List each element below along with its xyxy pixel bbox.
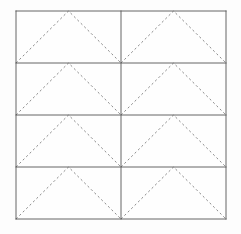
cell-background-cell-r1c1 bbox=[16, 11, 121, 63]
figure-canvas bbox=[0, 0, 241, 234]
cell-background-cell-r3c2 bbox=[121, 115, 226, 167]
cell-background-cell-r1c2 bbox=[121, 11, 226, 63]
cell-background-cell-r3c1 bbox=[16, 115, 121, 167]
cell-background-cell-r2c1 bbox=[16, 63, 121, 115]
cell-background-cell-r4c1 bbox=[16, 167, 121, 219]
cell-background-cell-r4c2 bbox=[121, 167, 226, 219]
cell-background-cell-r2c2 bbox=[121, 63, 226, 115]
grid-diagram-svg bbox=[0, 0, 241, 234]
